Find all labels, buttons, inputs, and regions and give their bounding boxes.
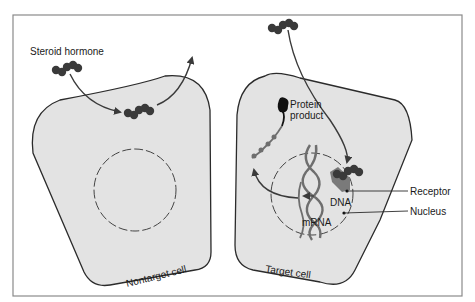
dna-label: DNA	[330, 197, 351, 208]
steroid-hormone-label: Steroid hormone	[30, 46, 104, 57]
protein-product-label-line1: Protein	[290, 99, 322, 110]
mrna-label: mRNA	[302, 217, 332, 228]
receptor-label: Receptor	[410, 186, 451, 197]
nucleus-label: Nucleus	[410, 206, 446, 217]
protein-product-label-line2: product	[290, 110, 324, 121]
steroid-hormone-diagram: Nontarget cell Steroid hormone Target ce…	[0, 0, 475, 302]
